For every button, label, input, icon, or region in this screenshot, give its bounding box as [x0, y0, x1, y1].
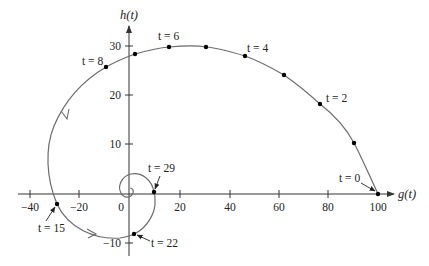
pointer-t15	[46, 207, 55, 221]
point-t0	[376, 192, 380, 196]
label-t0: t = 0	[339, 172, 360, 184]
y-tick-label: 20	[110, 89, 122, 101]
x-tick-label: 40	[224, 201, 236, 213]
x-tick-label: 60	[273, 201, 285, 213]
point-t29	[152, 190, 156, 194]
point-t5	[204, 45, 208, 49]
point-t15	[55, 202, 59, 206]
x-tick-label: 80	[322, 201, 334, 213]
label-t22: t = 22	[151, 237, 178, 249]
axes: −40 −20 0 20 40 60 80 100 30 20 10 −10 g…	[18, 8, 416, 256]
x-tick-label: 100	[369, 201, 387, 213]
label-t4: t = 4	[247, 42, 268, 54]
label-t29: t = 29	[148, 162, 175, 174]
y-tick-label: 30	[110, 40, 122, 52]
point-t3	[282, 73, 286, 77]
pointer-t22	[137, 235, 150, 241]
label-t8: t = 8	[82, 55, 103, 67]
point-t2	[318, 102, 322, 106]
point-t6	[167, 45, 171, 49]
y-axis-label: h(t)	[120, 8, 138, 22]
pointer-t29	[155, 176, 160, 189]
x-tick-label: 0	[118, 201, 124, 213]
point-t1	[352, 141, 356, 145]
point-t22	[132, 232, 136, 236]
label-t6: t = 6	[158, 30, 179, 42]
point-t7	[133, 52, 137, 56]
label-t2: t = 2	[326, 92, 347, 104]
x-tick-label: −20	[70, 201, 88, 213]
label-t15: t = 15	[38, 222, 65, 234]
point-t8	[104, 65, 108, 69]
x-tick-label: 20	[174, 201, 186, 213]
x-axis-label: g(t)	[398, 187, 416, 201]
y-tick-label: 10	[110, 138, 122, 150]
parametric-plot: −40 −20 0 20 40 60 80 100 30 20 10 −10 g…	[0, 0, 429, 266]
x-tick-label: −40	[21, 201, 39, 213]
point-t4	[243, 54, 247, 58]
annotations: t = 6 t = 8 t = 4 t = 2 t = 0 t = 29 t =…	[38, 30, 375, 249]
